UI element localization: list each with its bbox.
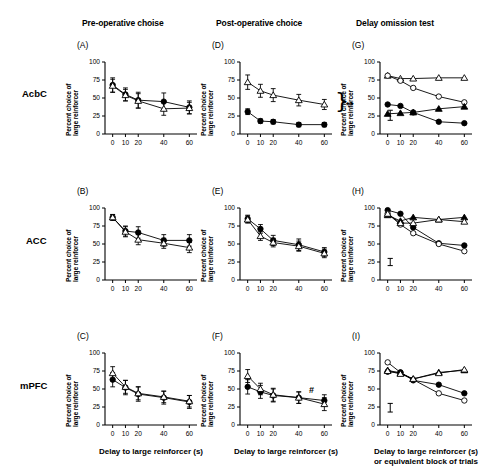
panel-letter-h: (H) — [352, 186, 364, 196]
svg-text:25: 25 — [228, 403, 236, 410]
svg-text:100: 100 — [224, 204, 235, 211]
svg-text:20: 20 — [135, 430, 143, 437]
y-axis-title-line-2: large reinforcer — [207, 230, 214, 282]
svg-text:0: 0 — [231, 421, 235, 428]
svg-text:10: 10 — [397, 285, 405, 292]
plot-panel-f: 0255075100010204060 — [240, 353, 334, 427]
svg-text:10: 10 — [397, 430, 405, 437]
svg-text:40: 40 — [160, 430, 168, 437]
plot-panel-c: 0255075100010204060 — [105, 353, 199, 427]
svg-text:100: 100 — [224, 58, 235, 65]
svg-text:40: 40 — [295, 430, 303, 437]
svg-text:75: 75 — [368, 222, 376, 229]
svg-text:0: 0 — [386, 430, 390, 437]
svg-text:75: 75 — [228, 76, 236, 83]
y-axis-title-g: Percent choice oflarge reinforcer — [340, 84, 355, 136]
y-axis-title-line-1: Percent choice of — [340, 84, 347, 136]
panel-letter-c: (C) — [77, 331, 89, 341]
svg-text:25: 25 — [93, 403, 101, 410]
significance-hash: # — [309, 385, 315, 395]
y-axis-title-line-2: large reinforcer — [72, 230, 79, 282]
y-axis-title-line-1: Percent choice of — [340, 230, 347, 282]
svg-text:20: 20 — [270, 430, 278, 437]
svg-text:20: 20 — [270, 139, 278, 146]
plot-panel-g: 0255075100010204060 — [380, 62, 474, 136]
svg-text:50: 50 — [228, 240, 236, 247]
svg-text:100: 100 — [89, 349, 100, 356]
y-axis-title-line-1: Percent choice of — [65, 230, 72, 282]
svg-text:0: 0 — [371, 276, 375, 283]
y-axis-title-line-2: large reinforcer — [72, 375, 79, 427]
y-axis-title-line-2: large reinforcer — [347, 84, 354, 136]
column-header-delay-omission: Delay omission test — [356, 18, 434, 28]
panel-letter-a: (A) — [77, 40, 88, 50]
y-axis-title-line-1: Percent choice of — [65, 84, 72, 136]
y-axis-title-i: Percent choice oflarge reinforcer — [340, 375, 355, 427]
svg-text:25: 25 — [93, 258, 101, 265]
svg-text:75: 75 — [93, 76, 101, 83]
svg-text:0: 0 — [231, 130, 235, 137]
svg-text:40: 40 — [435, 139, 443, 146]
svg-text:10: 10 — [397, 139, 405, 146]
svg-text:0: 0 — [246, 139, 250, 146]
y-axis-title-line-2: large reinforcer — [72, 84, 79, 136]
y-axis-title-line-1: Percent choice of — [200, 230, 207, 282]
svg-text:10: 10 — [257, 430, 265, 437]
svg-text:100: 100 — [89, 58, 100, 65]
svg-text:100: 100 — [224, 349, 235, 356]
svg-text:40: 40 — [160, 139, 168, 146]
svg-text:20: 20 — [270, 285, 278, 292]
svg-text:0: 0 — [96, 276, 100, 283]
plot-panel-h: 0255075100010204060 — [380, 208, 474, 282]
svg-text:75: 75 — [228, 222, 236, 229]
panel-letter-b: (B) — [77, 186, 88, 196]
x-axis-title-line-1: Delay to large reinforcer (s) — [335, 447, 494, 457]
y-axis-title-line-1: Percent choice of — [340, 375, 347, 427]
panel-letter-f: (F) — [212, 331, 223, 341]
row-label-mpfc: mPFC — [20, 380, 47, 391]
svg-text:25: 25 — [368, 403, 376, 410]
panel-letter-d: (D) — [212, 40, 224, 50]
y-axis-title-line-2: large reinforcer — [347, 230, 354, 282]
panel-letter-i: (I) — [352, 331, 360, 341]
svg-text:50: 50 — [93, 94, 101, 101]
svg-text:10: 10 — [257, 285, 265, 292]
y-axis-title-line-2: large reinforcer — [347, 375, 354, 427]
row-label-acbc: AcbC — [22, 88, 47, 99]
plot-panel-d: 0255075100010204060 — [240, 62, 334, 136]
svg-text:40: 40 — [295, 139, 303, 146]
svg-text:0: 0 — [386, 285, 390, 292]
svg-text:60: 60 — [186, 139, 194, 146]
svg-text:25: 25 — [368, 258, 376, 265]
svg-text:0: 0 — [386, 139, 390, 146]
svg-text:60: 60 — [461, 430, 469, 437]
x-axis-title-line-2: or equivalent block of trials — [335, 457, 494, 467]
plot-panel-i: 0255075100010204060 — [380, 353, 474, 427]
y-axis-title-a: Percent choice oflarge reinforcer — [65, 84, 80, 136]
svg-text:0: 0 — [111, 285, 115, 292]
plot-panel-b: 0255075100010204060 — [105, 208, 199, 282]
svg-text:25: 25 — [93, 112, 101, 119]
y-axis-title-c: Percent choice oflarge reinforcer — [65, 375, 80, 427]
plot-panel-e: 0255075100010204060 — [240, 208, 334, 282]
svg-text:40: 40 — [435, 285, 443, 292]
svg-text:25: 25 — [228, 112, 236, 119]
svg-text:50: 50 — [228, 94, 236, 101]
svg-text:0: 0 — [96, 130, 100, 137]
y-axis-title-e: Percent choice oflarge reinforcer — [200, 230, 215, 282]
svg-text:25: 25 — [228, 258, 236, 265]
svg-text:20: 20 — [410, 139, 418, 146]
svg-text:40: 40 — [160, 285, 168, 292]
y-axis-title-line-1: Percent choice of — [200, 375, 207, 427]
svg-text:0: 0 — [111, 430, 115, 437]
svg-text:0: 0 — [371, 130, 375, 137]
y-axis-title-line-1: Percent choice of — [65, 375, 72, 427]
svg-text:10: 10 — [122, 139, 130, 146]
svg-text:100: 100 — [364, 58, 375, 65]
svg-text:75: 75 — [93, 222, 101, 229]
svg-text:60: 60 — [321, 285, 329, 292]
svg-text:100: 100 — [89, 204, 100, 211]
svg-text:100: 100 — [364, 204, 375, 211]
svg-text:60: 60 — [186, 430, 194, 437]
